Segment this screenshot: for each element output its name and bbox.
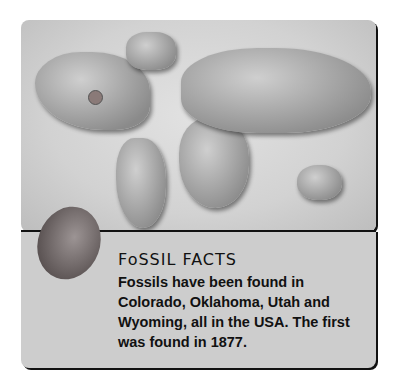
fact-box-title: FoSSIL FACTS [118, 250, 237, 269]
eurasia-landmass [181, 48, 371, 133]
south-america-landmass [116, 138, 166, 228]
greenland-landmass [126, 32, 176, 70]
australia-landmass [297, 165, 342, 200]
location-dot-icon [88, 90, 103, 105]
fact-box-body: Fossils have been found in Colorado, Okl… [118, 272, 368, 352]
world-map-panel [21, 20, 376, 232]
